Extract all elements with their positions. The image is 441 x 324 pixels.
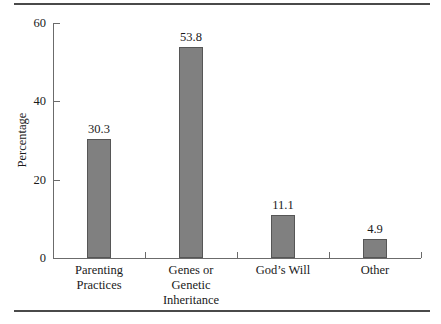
bar-value-label: 30.3 bbox=[69, 123, 129, 136]
x-axis-line bbox=[53, 258, 421, 259]
x-axis-category-label-line: Other bbox=[329, 263, 421, 278]
bottom-divider-rule bbox=[14, 310, 430, 312]
x-axis-category-label: ParentingPractices bbox=[53, 263, 145, 293]
x-axis-category-label-line: Parenting bbox=[53, 263, 145, 278]
x-axis-tick bbox=[145, 252, 146, 258]
y-axis-tick bbox=[54, 23, 60, 24]
bar-value-label: 53.8 bbox=[161, 31, 221, 44]
y-axis-tick-label: 40 bbox=[6, 95, 46, 108]
x-axis-tick bbox=[329, 252, 330, 258]
x-axis-category-label: God’s Will bbox=[237, 263, 329, 278]
bar bbox=[179, 47, 203, 258]
y-axis-tick bbox=[54, 101, 60, 102]
x-axis-category-label: Genes orGeneticInheritance bbox=[145, 263, 237, 308]
bar-value-label: 11.1 bbox=[253, 199, 313, 212]
y-axis-tick bbox=[54, 180, 60, 181]
bar bbox=[363, 239, 387, 258]
x-axis-tick bbox=[421, 252, 422, 258]
y-axis-tick-label: 60 bbox=[6, 17, 46, 30]
bar-value-label: 4.9 bbox=[345, 223, 405, 236]
y-axis-line bbox=[53, 23, 54, 259]
y-axis-tick bbox=[54, 258, 60, 259]
x-axis-category-label-line: Genetic bbox=[145, 278, 237, 293]
y-axis-tick-label: 0 bbox=[6, 252, 46, 265]
x-axis-category-label: Other bbox=[329, 263, 421, 278]
y-axis-title: Percentage bbox=[16, 113, 29, 168]
bar bbox=[87, 139, 111, 258]
bar-chart-figure: Percentage 0204060 30.353.811.14.9 Paren… bbox=[0, 0, 441, 324]
bar bbox=[271, 215, 295, 258]
x-axis-category-label-line: God’s Will bbox=[237, 263, 329, 278]
top-divider-rule bbox=[14, 3, 430, 5]
y-axis-tick-label: 20 bbox=[6, 174, 46, 187]
x-axis-category-label-line: Genes or bbox=[145, 263, 237, 278]
x-axis-category-label-line: Practices bbox=[53, 278, 145, 293]
x-axis-category-label-line: Inheritance bbox=[145, 293, 237, 308]
x-axis-tick bbox=[237, 252, 238, 258]
